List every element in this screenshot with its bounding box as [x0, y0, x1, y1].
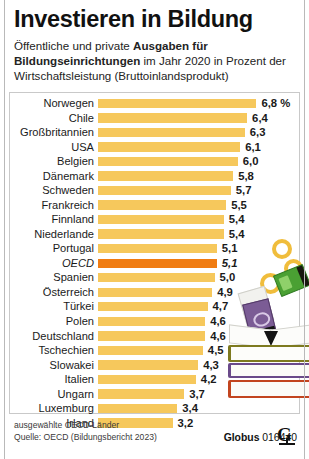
bar: [98, 99, 256, 108]
bar-label: Belgien: [10, 154, 94, 169]
olive-book-icon: [228, 345, 309, 362]
bar-label: Tschechien: [10, 343, 94, 358]
infographic-panel: Investieren in Bildung Öffentliche und p…: [0, 0, 309, 459]
bar: [98, 346, 203, 355]
bar: [98, 244, 217, 253]
bar-value: 3,7: [189, 387, 205, 402]
bar: [98, 113, 247, 122]
bar-value: 5,7: [236, 183, 252, 198]
bar-value: 5,4: [229, 212, 245, 227]
bar: [98, 404, 177, 413]
bar: [98, 128, 245, 137]
bar-value: 6,8 %: [261, 96, 290, 111]
bar: [98, 288, 212, 297]
footnote-selection: ausgewählte OECD-Länder: [14, 420, 204, 432]
bar: [98, 317, 205, 326]
bar-value: 3,4: [182, 401, 198, 416]
bar-row: Frankreich5,5: [10, 198, 301, 213]
bar-row: USA6,1: [10, 140, 301, 155]
bar: [98, 302, 208, 311]
bar: [98, 273, 215, 282]
bar-label: Türkei: [10, 299, 94, 314]
bar-label: Italien: [10, 372, 94, 387]
bar-value: 4,2: [201, 372, 217, 387]
purple-book-icon: [228, 363, 309, 378]
bar-row: Finnland5,4: [10, 212, 301, 227]
bar: [98, 389, 184, 398]
bar: [98, 171, 233, 180]
footnote-source: Quelle: OECD (Bildungsbericht 2023): [14, 432, 204, 444]
bar-value: 4,3: [203, 358, 219, 373]
bar-value: 6,3: [250, 125, 266, 140]
red-book-icon: [228, 380, 309, 398]
bar-value: 5,5: [231, 198, 247, 213]
bar: [98, 375, 196, 384]
bar-label: OECD: [10, 256, 94, 271]
bar-label: Schweden: [10, 183, 94, 198]
bar-label: Österreich: [10, 285, 94, 300]
bar: [98, 229, 224, 238]
bar: [98, 186, 231, 195]
bar-label: Chile: [10, 111, 94, 126]
bar-label: Slowakei: [10, 358, 94, 373]
books-and-money-illustration: [228, 233, 309, 413]
bar: [98, 200, 226, 209]
bar-value: 4,5: [208, 343, 224, 358]
bar: [98, 360, 198, 369]
bar: [98, 157, 238, 166]
bar-label: Polen: [10, 314, 94, 329]
bar-row: Schweden5,7: [10, 183, 301, 198]
bar-value: 4,6: [210, 314, 226, 329]
bar-label: Großbritannien: [10, 125, 94, 140]
green-banknote-icon: [273, 264, 309, 297]
bar-label: Finnland: [10, 212, 94, 227]
bar-label: USA: [10, 140, 94, 155]
bar-row: Chile6,4: [10, 111, 301, 126]
page-title: Investieren in Bildung: [14, 6, 299, 32]
bar-label: Dänemark: [10, 169, 94, 184]
bar-label: Luxemburg: [10, 401, 94, 416]
bar: [98, 142, 240, 151]
bar-label: Deutschland: [10, 329, 94, 344]
bar-value: 4,6: [210, 329, 226, 344]
bar-label: Spanien: [10, 270, 94, 285]
bar-row: Großbritannien6,3: [10, 125, 301, 140]
subtitle-part1: Öffentliche und private: [14, 39, 133, 52]
bar: [98, 331, 205, 340]
bar-row: Norwegen6,8 %: [10, 96, 301, 111]
bar-value: 6,0: [243, 154, 259, 169]
bar-value: 4,7: [213, 299, 229, 314]
bar-value: 5,8: [238, 169, 254, 184]
bar-label: Norwegen: [10, 96, 94, 111]
bar-chart: Norwegen6,8 %Chile6,4Großbritannien6,3US…: [9, 92, 300, 414]
bar-value: 6,1: [245, 140, 261, 155]
bar-label: Frankreich: [10, 198, 94, 213]
subtitle: Öffentliche und private Ausgaben für Bil…: [14, 38, 299, 84]
bar-label: Portugal: [10, 241, 94, 256]
bar-label: Ungarn: [10, 387, 94, 402]
bar-row: Belgien6,0: [10, 154, 301, 169]
bar-value: 6,4: [252, 111, 268, 126]
bar-label: Niederlande: [10, 227, 94, 242]
bar: [98, 215, 224, 224]
globus-globe-icon: G: [277, 426, 299, 450]
brand-name: Globus: [224, 432, 260, 443]
coin-ring-1-icon: [272, 239, 292, 259]
bar-row: Dänemark5,8: [10, 169, 301, 184]
footer-notes: ausgewählte OECD-Länder Quelle: OECD (Bi…: [14, 420, 204, 443]
bar: [98, 259, 217, 268]
